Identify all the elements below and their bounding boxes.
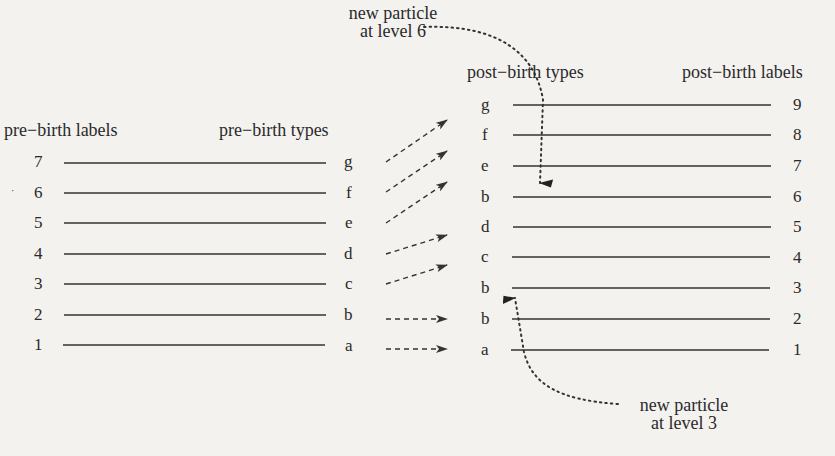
post-label-3: 3 xyxy=(793,279,802,297)
post-birth-lines xyxy=(511,105,771,350)
pre-birth-lines xyxy=(63,163,326,345)
post-type-g: g xyxy=(481,96,490,114)
annotation-top-line2: at level 6 xyxy=(339,22,447,40)
post-type-a: a xyxy=(481,341,489,359)
post-type-e: e xyxy=(481,157,489,175)
post-label-7: 7 xyxy=(793,157,802,175)
header-post-birth-types: post−birth types xyxy=(467,63,584,81)
pre-type-a: a xyxy=(345,337,353,355)
post-type-d: d xyxy=(481,218,490,236)
post-type-f: f xyxy=(482,126,488,144)
post-label-4: 4 xyxy=(793,249,802,267)
header-post-birth-labels: post−birth labels xyxy=(682,63,803,81)
post-type-c: c xyxy=(481,248,489,266)
post-label-9: 9 xyxy=(793,96,802,114)
pre-label-5: 5 xyxy=(34,214,43,232)
arrow-g-to-9 xyxy=(386,120,447,162)
pre-label-3: 3 xyxy=(34,275,43,293)
pre-type-g: g xyxy=(344,153,353,171)
stray-dot: · xyxy=(11,182,14,200)
post-type-b-3: b xyxy=(481,279,490,297)
pre-type-e: e xyxy=(345,214,353,232)
arrow-e-to-7 xyxy=(386,182,447,223)
pre-type-b: b xyxy=(344,306,353,324)
pre-type-d: d xyxy=(344,245,353,263)
arrow-c-to-4 xyxy=(386,265,447,284)
annotation-bottom-line2: at level 3 xyxy=(630,414,738,432)
pre-label-2: 2 xyxy=(34,306,43,324)
annotation-new-particle-level-6: new particle at level 6 xyxy=(339,4,447,40)
annotation-top-line1: new particle xyxy=(339,4,447,22)
post-label-6: 6 xyxy=(793,188,802,206)
arrow-d-to-5 xyxy=(386,235,447,254)
header-pre-birth-labels: pre−birth labels xyxy=(4,121,118,139)
pre-type-f: f xyxy=(346,184,352,202)
pre-label-7: 7 xyxy=(34,153,43,171)
annotation-new-particle-level-3: new particle at level 3 xyxy=(630,396,738,432)
post-type-b-2: b xyxy=(481,310,490,328)
new-particle-level-3-curve xyxy=(515,298,618,404)
post-label-1: 1 xyxy=(793,341,802,359)
mapping-arrows xyxy=(386,120,447,349)
post-type-b-6: b xyxy=(481,188,490,206)
annotation-bottom-line1: new particle xyxy=(630,396,738,414)
header-pre-birth-types: pre−birth types xyxy=(219,121,329,139)
arrow-f-to-8 xyxy=(386,151,447,192)
pre-label-4: 4 xyxy=(34,245,43,263)
pre-label-1: 1 xyxy=(34,336,43,354)
pre-type-c: c xyxy=(345,275,353,293)
post-label-5: 5 xyxy=(793,218,802,236)
post-label-8: 8 xyxy=(793,126,802,144)
post-label-2: 2 xyxy=(793,310,802,328)
pre-label-6: 6 xyxy=(34,184,43,202)
